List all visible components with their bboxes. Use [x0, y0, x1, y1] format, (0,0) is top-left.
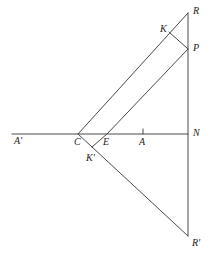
- point-label-e: E: [103, 137, 109, 147]
- point-label-p: P: [193, 43, 199, 53]
- ray-C-to-R: [78, 13, 188, 134]
- point-label-r: R: [193, 6, 199, 16]
- point-label-c: C: [74, 137, 81, 147]
- point-label-r-prime: R': [192, 238, 200, 248]
- ray-C-to-R-prime: [78, 134, 188, 236]
- point-label-k-prime: K': [86, 153, 95, 163]
- point-label-a: A: [139, 137, 145, 147]
- ray-E-to-P: [107, 49, 188, 134]
- point-label-n: N: [193, 128, 200, 138]
- geometry-canvas: [0, 0, 210, 258]
- geometry-figure: A' C E A N R K P K' R': [0, 0, 210, 258]
- point-label-k: K: [160, 24, 167, 34]
- point-label-a-prime: A': [14, 136, 22, 146]
- segment-K-to-P: [169, 32, 188, 49]
